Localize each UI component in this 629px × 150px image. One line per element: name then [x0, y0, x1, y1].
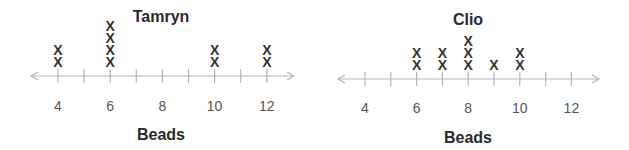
x-mark: X — [515, 46, 524, 60]
dot-plot-clio: Clio Beads 4681012XXXXXXXXXX — [0, 0, 629, 150]
number-line — [0, 0, 629, 150]
x-mark: X — [412, 46, 421, 60]
x-axis-label: Beads — [444, 129, 492, 147]
tick-label: 8 — [464, 100, 472, 116]
x-mark: X — [464, 34, 473, 48]
tick-label: 4 — [361, 100, 369, 116]
tick-label: 10 — [512, 100, 528, 116]
x-mark: X — [489, 58, 498, 72]
x-mark: X — [438, 46, 447, 60]
plot-title: Clio — [453, 11, 483, 29]
tick-label: 12 — [564, 100, 580, 116]
tick-label: 6 — [413, 100, 421, 116]
